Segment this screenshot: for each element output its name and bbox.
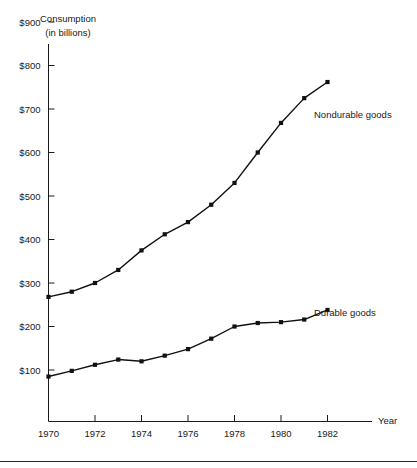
x-axis-ticks: 1970197219741976197819801982 [38, 415, 338, 439]
data-point-marker [325, 80, 329, 84]
chart-svg: Consumption (in billions) $100$200$300$4… [0, 0, 417, 468]
data-point-marker [70, 290, 74, 294]
consumption-line-chart: Consumption (in billions) $100$200$300$4… [0, 0, 417, 468]
y-tick-label: $600 [19, 147, 40, 158]
y-axis-title-line-1: Consumption [40, 13, 96, 24]
data-point-marker [116, 268, 120, 272]
y-tick-label: $300 [19, 278, 40, 289]
data-point-marker [209, 337, 213, 341]
data-point-marker [186, 220, 190, 224]
y-tick-label: $900 [19, 17, 40, 28]
data-point-marker [163, 354, 167, 358]
y-axis-ticks: $100$200$300$400$500$600$700$800$900 [19, 17, 54, 376]
data-point-marker [232, 324, 236, 328]
series-layer [46, 80, 329, 379]
y-axis-title: Consumption (in billions) [40, 13, 96, 38]
x-tick-label: 1976 [177, 428, 198, 439]
data-point-marker [93, 363, 97, 367]
data-point-marker [279, 121, 283, 125]
x-tick-label: 1982 [317, 428, 338, 439]
data-point-marker [70, 369, 74, 373]
data-point-marker [302, 317, 306, 321]
data-point-marker [116, 357, 120, 361]
x-tick-label: 1970 [38, 428, 59, 439]
y-tick-label: $400 [19, 234, 40, 245]
x-axis-title: Year [378, 415, 397, 426]
series-line-2 [49, 310, 328, 377]
y-tick-label: $500 [19, 191, 40, 202]
x-tick-label: 1974 [131, 428, 152, 439]
data-point-marker [186, 347, 190, 351]
data-point-marker [302, 96, 306, 100]
x-tick-label: 1972 [84, 428, 105, 439]
data-point-marker [256, 150, 260, 154]
data-point-marker [46, 374, 50, 378]
data-point-marker [139, 359, 143, 363]
x-tick-label: 1980 [270, 428, 291, 439]
y-tick-label: $700 [19, 104, 40, 115]
data-point-marker [139, 248, 143, 252]
data-point-marker [279, 320, 283, 324]
data-point-marker [232, 181, 236, 185]
x-tick-label: 1978 [224, 428, 245, 439]
data-point-marker [256, 321, 260, 325]
data-point-marker [163, 232, 167, 236]
y-tick-label: $100 [19, 365, 40, 376]
y-axis-title-line-2: (in billions) [45, 27, 90, 38]
footer-divider [0, 461, 417, 462]
y-tick-label: $200 [19, 321, 40, 332]
series-line-1 [49, 82, 328, 297]
y-tick-label: $800 [19, 60, 40, 71]
data-point-marker [209, 203, 213, 207]
data-point-marker [93, 281, 97, 285]
series-label-2: Durable goods [314, 307, 376, 318]
series-labels: Nondurable goodsDurable goods [314, 109, 392, 318]
series-label-1: Nondurable goods [314, 109, 392, 120]
data-point-marker [46, 295, 50, 299]
